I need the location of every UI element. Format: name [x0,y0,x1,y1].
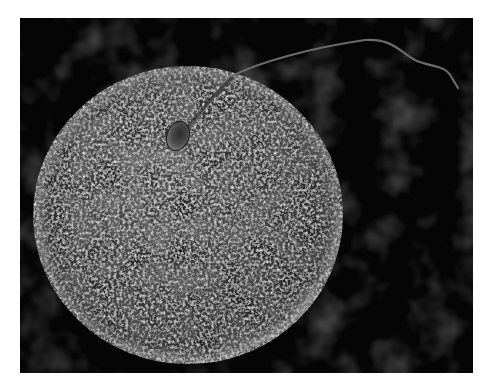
micrograph-canvas [20,18,473,373]
micrograph-image: Scanning electron micrograph-style image… [20,18,473,373]
